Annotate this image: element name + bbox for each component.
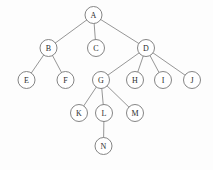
tree-node-label-b: B <box>46 44 51 53</box>
tree-node-g[interactable]: G <box>93 72 110 89</box>
tree-node-c[interactable]: C <box>88 40 105 57</box>
node-layer: ABCDEFGHIJKLMN <box>18 7 201 155</box>
tree-node-n[interactable]: N <box>95 138 112 155</box>
tree-edge-d-h <box>138 56 143 72</box>
tree-node-label-h: H <box>132 76 138 85</box>
tree-edge-a-b <box>55 20 86 43</box>
tree-node-label-n: N <box>101 142 107 151</box>
tree-node-label-f: F <box>63 76 68 85</box>
tree-edge-g-k <box>84 87 97 106</box>
tree-node-i[interactable]: I <box>155 72 172 89</box>
tree-node-k[interactable]: K <box>71 105 88 122</box>
tree-diagram-figure: ABCDEFGHIJKLMN <box>0 0 213 170</box>
tree-edge-a-c <box>94 23 95 39</box>
tree-node-label-c: C <box>93 44 98 53</box>
tree-edge-g-l <box>102 88 103 104</box>
tree-node-label-e: E <box>24 76 29 85</box>
tree-edge-d-j <box>153 53 185 75</box>
tree-edge-a-d <box>101 20 139 44</box>
tree-node-e[interactable]: E <box>18 72 35 89</box>
tree-node-label-j: J <box>190 76 193 85</box>
tree-node-h[interactable]: H <box>127 72 144 89</box>
tree-node-label-i: I <box>162 76 165 85</box>
tree-node-label-k: K <box>76 109 82 118</box>
tree-node-d[interactable]: D <box>138 40 155 57</box>
tree-node-label-a: A <box>91 11 97 20</box>
tree-edge-g-m <box>107 86 129 107</box>
tree-node-j[interactable]: J <box>184 72 201 89</box>
tree-node-label-m: M <box>131 109 138 118</box>
tree-node-l[interactable]: L <box>96 105 113 122</box>
tree-node-b[interactable]: B <box>40 40 57 57</box>
tree-edge-b-f <box>52 56 61 73</box>
tree-edge-d-i <box>150 56 159 73</box>
tree-node-f[interactable]: F <box>57 72 74 89</box>
tree-node-label-l: L <box>102 109 107 118</box>
tree-node-label-g: G <box>98 76 104 85</box>
tree-node-m[interactable]: M <box>127 105 144 122</box>
tree-node-label-d: D <box>143 44 149 53</box>
tree-diagram-canvas: ABCDEFGHIJKLMN <box>0 0 213 170</box>
tree-edge-b-e <box>31 55 43 73</box>
tree-node-a[interactable]: A <box>85 7 102 24</box>
